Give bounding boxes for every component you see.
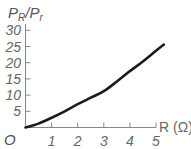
x-tick-label: 2 xyxy=(73,133,82,148)
y-axis-label: PR/Pr xyxy=(8,4,43,23)
x-tick-label: 3 xyxy=(100,133,108,148)
data-curve xyxy=(26,45,164,128)
y-ticks: 51015202530 xyxy=(4,22,30,119)
origin-label: O xyxy=(4,131,16,148)
x-ticks: 12345 xyxy=(48,123,160,149)
x-axis-label: R (Ω) xyxy=(159,119,191,135)
x-tick-label: 5 xyxy=(152,133,160,148)
y-tick-label: 20 xyxy=(4,55,21,71)
y-tick-label: 25 xyxy=(4,39,21,55)
x-tick-label: 4 xyxy=(126,133,134,148)
y-tick-label: 10 xyxy=(5,87,21,103)
x-tick-label: 1 xyxy=(48,133,56,148)
y-tick-label: 15 xyxy=(5,71,21,87)
y-tick-label: 5 xyxy=(13,103,21,119)
chart: PR/Pr 51015202530 12345 O R (Ω) xyxy=(0,0,191,148)
y-tick-label: 30 xyxy=(5,22,21,38)
